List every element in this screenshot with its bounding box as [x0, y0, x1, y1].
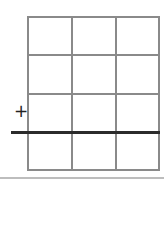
- bottom-divider: [0, 177, 164, 179]
- grid-row-divider-2: [27, 93, 160, 95]
- grid-row-divider-1: [27, 54, 160, 56]
- sum-line: [11, 131, 160, 134]
- plus-sign-icon: +: [14, 100, 28, 122]
